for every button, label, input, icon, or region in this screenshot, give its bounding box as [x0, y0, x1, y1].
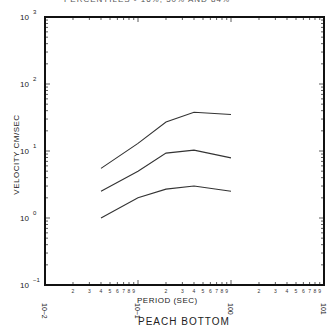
- svg-text:2: 2: [258, 288, 261, 294]
- svg-text:10: 10: [20, 147, 29, 156]
- svg-text:6: 6: [302, 288, 305, 294]
- svg-text:8: 8: [128, 288, 131, 294]
- svg-text:9: 9: [132, 288, 135, 294]
- svg-text:8: 8: [221, 288, 224, 294]
- axis-ticks: 234567892345678923456789: [45, 17, 324, 294]
- svg-text:3: 3: [274, 288, 277, 294]
- svg-text:10: 10: [20, 214, 29, 223]
- svg-text:4: 4: [100, 288, 103, 294]
- svg-text:1: 1: [33, 143, 37, 149]
- tick-labels: 10310210110010−110−210−1100101: [20, 9, 327, 319]
- series-line-2: [101, 186, 231, 218]
- svg-text:10: 10: [20, 13, 29, 22]
- svg-text:6: 6: [209, 288, 212, 294]
- svg-text:5: 5: [295, 288, 298, 294]
- svg-text:3: 3: [88, 288, 91, 294]
- svg-text:8: 8: [314, 288, 317, 294]
- data-series: [101, 112, 231, 218]
- y-axis-label: VELOCITY CM/SEC: [12, 114, 21, 194]
- svg-text:5: 5: [109, 288, 112, 294]
- x-axis-label: PERIOD (SEC): [137, 296, 198, 305]
- svg-text:4: 4: [286, 288, 289, 294]
- svg-text:9: 9: [225, 288, 228, 294]
- site-label: PEACH BOTTOM: [138, 316, 230, 327]
- svg-text:2: 2: [72, 288, 75, 294]
- svg-text:9: 9: [318, 288, 321, 294]
- svg-text:10−2: 10−2: [41, 303, 48, 319]
- svg-text:5: 5: [202, 288, 205, 294]
- svg-text:4: 4: [193, 288, 196, 294]
- svg-text:100: 100: [227, 303, 234, 315]
- svg-text:0: 0: [33, 210, 37, 216]
- series-line-1: [101, 150, 231, 191]
- svg-text:6: 6: [116, 288, 119, 294]
- svg-text:7: 7: [308, 288, 311, 294]
- svg-text:10: 10: [20, 281, 29, 290]
- svg-text:3: 3: [33, 9, 37, 15]
- svg-text:7: 7: [122, 288, 125, 294]
- svg-text:2: 2: [165, 288, 168, 294]
- svg-text:3: 3: [181, 288, 184, 294]
- svg-text:7: 7: [215, 288, 218, 294]
- svg-text:101: 101: [320, 303, 327, 315]
- svg-text:2: 2: [33, 76, 37, 82]
- series-line-0: [101, 112, 231, 168]
- svg-text:10: 10: [20, 80, 29, 89]
- chart-plot: 234567892345678923456789 10310210110010−…: [0, 0, 329, 329]
- svg-text:−1: −1: [33, 277, 41, 283]
